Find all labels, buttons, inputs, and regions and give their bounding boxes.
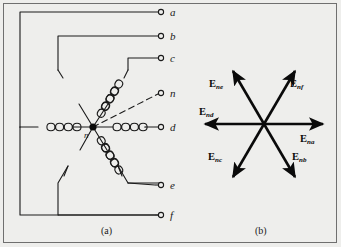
terminal-label-e: e bbox=[170, 180, 175, 191]
phasor-label-ne: Ene bbox=[209, 79, 223, 90]
terminal-label-a: a bbox=[170, 7, 176, 18]
phasor-label-nb: Enb bbox=[292, 152, 306, 163]
phasor-ne bbox=[233, 71, 264, 124]
phasor-label-nd: End bbox=[199, 107, 213, 118]
terminal-label-c: c bbox=[170, 53, 175, 64]
terminal-label-n: n bbox=[170, 88, 176, 99]
caption-b: (b) bbox=[255, 226, 267, 236]
phasor-label-nf: Enf bbox=[290, 79, 303, 90]
terminal-label-b: b bbox=[170, 31, 176, 42]
phasor-nc bbox=[233, 124, 264, 177]
terminal-label-d: d bbox=[170, 122, 176, 133]
figure-canvas: a b c n d e f n Ena Enb Enc End Ene Enf … bbox=[0, 0, 341, 247]
phasor-sub-nf: nf bbox=[297, 83, 303, 91]
caption-a: (a) bbox=[101, 226, 112, 236]
neutral-point-label: n bbox=[84, 131, 89, 140]
phasor-nb bbox=[264, 124, 295, 177]
terminal-label-f: f bbox=[170, 210, 173, 221]
phasor-sub-nb: nb bbox=[299, 156, 306, 164]
phasor-label-nc: Enc bbox=[208, 152, 222, 163]
phasor-sub-nc: nc bbox=[215, 156, 222, 164]
phasor-sub-nd: nd bbox=[206, 111, 213, 119]
phasor-sub-na: na bbox=[307, 138, 314, 146]
phasor-sub-ne: ne bbox=[216, 83, 223, 91]
phasor-label-na: Ena bbox=[300, 134, 314, 145]
